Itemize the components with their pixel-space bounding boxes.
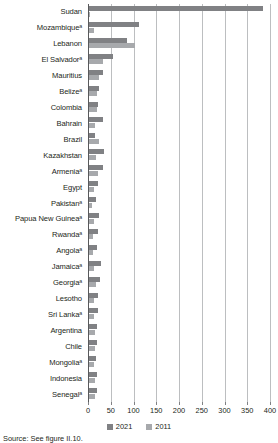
- category-label: Indonesia: [50, 374, 82, 383]
- bar-2021: [89, 197, 96, 202]
- bar-2021: [89, 133, 95, 138]
- bar-2011: [89, 107, 97, 112]
- legend-item[interactable]: 2011: [146, 423, 171, 431]
- bar-2011: [89, 43, 135, 48]
- gridline: [179, 4, 180, 402]
- bar-2011: [89, 362, 94, 367]
- bar-2011: [89, 59, 103, 64]
- bar-2021: [89, 372, 97, 377]
- category-label: Belizeᵃ: [59, 87, 82, 96]
- bar-2011: [89, 394, 95, 399]
- bar-2011: [89, 346, 95, 351]
- tick-label: 350: [241, 406, 253, 415]
- bar-2011: [89, 12, 90, 17]
- plot-area: [88, 4, 270, 402]
- category-label: El Salvadorᵃ: [42, 55, 82, 64]
- category-label: Brazil: [64, 135, 82, 144]
- bar-2021: [89, 324, 97, 329]
- bar-2021: [89, 229, 98, 234]
- bar-2011: [89, 203, 92, 208]
- bar-2011: [89, 187, 94, 192]
- bar-2011: [89, 314, 94, 319]
- category-label: Mauritius: [52, 71, 82, 80]
- bar-2011: [89, 28, 94, 33]
- bar-2021: [89, 22, 139, 27]
- category-label: Egypt: [63, 183, 82, 192]
- category-label: Armeniaᵃ: [52, 167, 82, 176]
- legend-label: 2011: [155, 423, 171, 431]
- bar-2021: [89, 54, 113, 59]
- tick-label: 400: [264, 406, 276, 415]
- tick-label: 150: [150, 406, 162, 415]
- category-label: Georgiaᵃ: [53, 278, 82, 287]
- category-label: Sri Lankaᵃ: [48, 310, 82, 319]
- bar-2011: [89, 378, 95, 383]
- bar-2011: [89, 91, 97, 96]
- bar-2021: [89, 261, 101, 266]
- tick-mark: [225, 402, 226, 405]
- category-label: Bahrain: [57, 119, 82, 128]
- bar-2011: [89, 155, 96, 160]
- category-label: Jamaicaᵃ: [52, 262, 82, 271]
- tick-label: 250: [196, 406, 208, 415]
- chart-legend: 20212011: [0, 421, 278, 433]
- category-label: Chile: [65, 342, 82, 351]
- category-label: Mozambiqueᵃ: [37, 23, 82, 32]
- legend-item[interactable]: 2021: [107, 423, 132, 431]
- gridline: [225, 4, 226, 402]
- bar-2011: [89, 219, 94, 224]
- tick-mark: [134, 402, 135, 405]
- gridline: [270, 4, 271, 402]
- bar-2021: [89, 117, 103, 122]
- gridline: [111, 4, 112, 402]
- bar-2011: [89, 171, 98, 176]
- value-axis: 050100150200250300350400: [88, 402, 270, 420]
- bar-2011: [89, 123, 95, 128]
- bar-chart-figure: SudanMozambiqueᵃLebanonEl SalvadorᵃMauri…: [0, 0, 278, 443]
- bar-2011: [89, 234, 93, 239]
- bar-2021: [89, 340, 97, 345]
- tick-label: 300: [218, 406, 230, 415]
- tick-mark: [88, 402, 89, 405]
- bar-2021: [89, 165, 103, 170]
- bar-2011: [89, 250, 93, 255]
- bar-2021: [89, 181, 98, 186]
- category-label: Rwandaᵃ: [52, 230, 82, 239]
- category-label: Senegalᵃ: [52, 390, 82, 399]
- gridline: [134, 4, 135, 402]
- category-label: Kazakhstan: [43, 151, 82, 160]
- bar-2021: [89, 293, 98, 298]
- category-label: Sudan: [61, 7, 82, 16]
- bar-2021: [89, 308, 98, 313]
- bar-2011: [89, 75, 99, 80]
- legend-swatch-icon: [146, 424, 152, 430]
- category-label: Mongoliaᵃ: [49, 358, 82, 367]
- bar-2021: [89, 388, 97, 393]
- bar-2021: [89, 356, 96, 361]
- category-label: Angolaᵃ: [56, 246, 82, 255]
- tick-mark: [270, 402, 271, 405]
- bar-2011: [89, 266, 94, 271]
- tick-mark: [156, 402, 157, 405]
- gridline: [247, 4, 248, 402]
- bar-2021: [89, 213, 99, 218]
- bar-2011: [89, 330, 95, 335]
- bar-2021: [89, 6, 263, 11]
- category-label: Pakistanᵃ: [51, 199, 82, 208]
- category-label: Colombia: [51, 103, 82, 112]
- bar-2011: [89, 282, 96, 287]
- category-label: Lesotho: [56, 294, 82, 303]
- tick-mark: [247, 402, 248, 405]
- tick-mark: [202, 402, 203, 405]
- tick-label: 0: [86, 406, 90, 415]
- legend-label: 2021: [116, 423, 132, 431]
- gridline: [156, 4, 157, 402]
- bar-2021: [89, 70, 103, 75]
- bar-2011: [89, 298, 94, 303]
- bar-2021: [89, 86, 99, 91]
- bar-2021: [89, 245, 97, 250]
- tick-label: 50: [107, 406, 115, 415]
- bar-2011: [89, 139, 99, 144]
- source-note: Source: See figure II.10.: [3, 434, 83, 443]
- category-label: Papua New Guineaᵃ: [15, 214, 82, 223]
